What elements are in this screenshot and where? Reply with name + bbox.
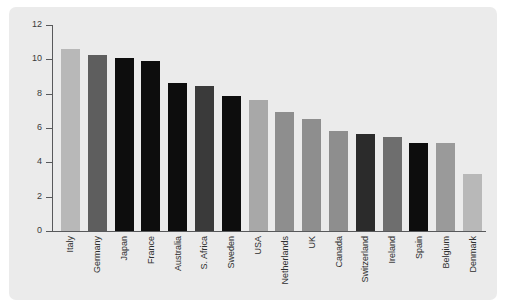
bar-chart-figure: 024681012 ItalyGermanyJapanFranceAustral… [0,0,506,307]
bar [61,49,80,231]
x-axis-label-text: Germany [93,236,102,273]
x-axis-label: Denmark [459,236,486,300]
bar [302,119,321,231]
bar [141,61,160,231]
x-axis-label: Australia [164,236,191,300]
bar [409,143,428,231]
x-axis-label-text: Belgium [441,236,450,269]
x-axis-label-text: Japan [120,236,129,261]
plot-area: 024681012 ItalyGermanyJapanFranceAustral… [0,0,506,307]
x-axis-label-text: UK [307,236,316,249]
bar [168,83,187,231]
x-axis-label-text: USA [254,236,263,255]
bar [356,134,375,231]
bar [329,131,348,231]
bar [222,96,241,231]
x-axis-label: S. Africa [191,236,218,300]
bar [88,55,107,231]
bar [436,143,455,231]
x-axis-label: Belgium [432,236,459,300]
x-axis-label: Sweden [218,236,245,300]
x-axis-label-text: Switzerland [361,236,370,283]
x-axis-label-text: Netherlands [280,236,289,285]
x-axis-label: UK [298,236,325,300]
x-axis-label: Germany [84,236,111,300]
x-axis-label: Canada [325,236,352,300]
x-axis-label: Netherlands [272,236,299,300]
x-axis-label-text: S. Africa [200,236,209,270]
bar [275,112,294,231]
bar [195,86,214,231]
x-axis-label: Japan [111,236,138,300]
x-axis-label-text: Sweden [227,236,236,269]
x-axis-label: Switzerland [352,236,379,300]
x-axis-label-text: France [146,236,155,264]
x-axis-label-text: Canada [334,236,343,268]
bar [249,100,268,231]
x-axis-label: USA [245,236,272,300]
x-axis-label: Italy [57,236,84,300]
bar [115,58,134,231]
bar [383,137,402,231]
x-axis-label: Ireland [379,236,406,300]
x-axis-label-text: Denmark [468,236,477,273]
x-axis-label-text: Italy [66,236,75,253]
x-axis-label-text: Spain [414,236,423,259]
bar [463,174,482,231]
x-axis-label: Spain [406,236,433,300]
x-axis-label: France [137,236,164,300]
x-axis-label-text: Ireland [388,236,397,264]
x-axis-label-text: Australia [173,236,182,271]
